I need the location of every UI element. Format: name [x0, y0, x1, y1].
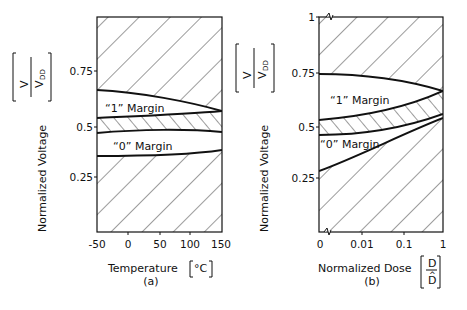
- panel-b-xlabel: Normalized Dose: [318, 262, 412, 275]
- panel-a-xlabel: Temperature: [107, 262, 178, 275]
- panel-b-ylabel-group: Normalized Voltage: [258, 125, 271, 232]
- panel-a-lower-fail-region: [97, 150, 222, 232]
- panel-b-xtick: 0.01: [350, 238, 373, 250]
- panel-b-yunit-num: V: [241, 71, 254, 79]
- panel-b-xtick: 0.1: [396, 238, 413, 250]
- panel-a-ylabel: Normalized Voltage: [36, 125, 49, 232]
- panel-b-ytick: 1: [308, 11, 315, 23]
- panel-b-xunit-den: D: [428, 274, 436, 287]
- panel-a-xtick: 100: [180, 238, 200, 250]
- panel-b-yunit-den-sub: DD: [262, 60, 270, 71]
- panel-a-x-axis: -50 0 50 100 150: [88, 232, 231, 250]
- panel-b-upper-fail-region: [319, 17, 443, 91]
- panel-b-ytick: 0.75: [292, 67, 315, 79]
- panel-a-yunit-den: V: [33, 80, 46, 88]
- panel-a-ytick: 0.75: [70, 65, 93, 77]
- panel-a-margin0-label: “0” Margin: [113, 140, 172, 153]
- panel-a-xtick: 150: [211, 238, 231, 250]
- panel-a-yunit: V V DD: [13, 53, 51, 101]
- panel-b-ytick: 0.5: [298, 121, 315, 133]
- panel-b-margin0-label: “0” Margin: [320, 138, 379, 151]
- panel-b-caption: (b): [364, 275, 380, 288]
- panel-a-xunit: °C: [190, 261, 212, 277]
- figure: “1” Margin “0” Margin 0.75 0.5 0.25 -50 …: [0, 0, 467, 310]
- panel-a-ytick: 0.25: [70, 171, 93, 183]
- panel-a-regions: [97, 17, 222, 232]
- panel-a-xtick: 0: [125, 238, 132, 250]
- panel-a-ylabel-group: Normalized Voltage: [36, 125, 49, 232]
- panel-b-xtick: 1: [440, 238, 447, 250]
- panel-b-regions: [319, 17, 443, 232]
- panel-b-xunit-num: D: [428, 257, 436, 270]
- panel-a-y-axis: 0.75 0.5 0.25: [70, 65, 97, 183]
- panel-b-ylabel: Normalized Voltage: [258, 125, 271, 232]
- panel-a: “1” Margin “0” Margin 0.75 0.5 0.25 -50 …: [13, 17, 231, 288]
- panel-b-xtick: 0: [317, 238, 324, 250]
- panel-b-yunit: V V DD: [236, 44, 274, 92]
- panel-b-yunit-den: V: [256, 71, 269, 79]
- panel-b-ytick: 0.25: [292, 172, 315, 184]
- panel-b: “1” Margin “0” Margin 1 0.75 0.5 0.25 0 …: [236, 11, 446, 288]
- panel-a-yunit-num: V: [18, 80, 31, 88]
- panel-b-y-axis: 1 0.75 0.5 0.25: [292, 11, 319, 184]
- panel-a-xtick: -50: [88, 238, 105, 250]
- panel-a-ytick: 0.5: [76, 121, 93, 133]
- panel-a-xtick: 50: [153, 238, 166, 250]
- panel-a-yunit-den-sub: DD: [39, 69, 47, 80]
- panel-b-xunit: D ^ D: [421, 256, 440, 288]
- panel-b-margin1-label: “1” Margin: [330, 94, 389, 107]
- panel-b-x-axis: 0 0.01 0.1 1: [317, 232, 447, 250]
- panel-a-margin1-label: “1” Margin: [105, 102, 164, 115]
- panel-a-caption: (a): [143, 275, 158, 288]
- panel-a-xunit-text: °C: [194, 262, 208, 275]
